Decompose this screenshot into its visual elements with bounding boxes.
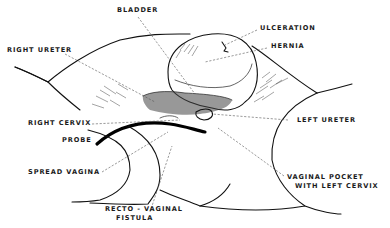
upper-contour <box>15 34 190 82</box>
leader-spread-vagina <box>102 132 168 172</box>
label-left-ureter: LEFT URETER <box>297 117 356 124</box>
label-spread-vagina: SPREAD VAGINA <box>28 169 100 176</box>
label-vaginal-pocket-line2: WITH LEFT CERVIX <box>295 183 379 190</box>
label-vaginal-pocket-line1: VAGINAL POCKET <box>287 174 364 181</box>
label-right-cervix: RIGHT CERVIX <box>28 120 91 127</box>
right-cervix-structure <box>160 116 178 118</box>
label-right-ureter: RIGHT URETER <box>7 47 72 54</box>
anatomical-diagram: BLADDER ULCERATION HERNIA RIGHT URETER L… <box>0 0 390 228</box>
upper-left-thigh <box>15 67 80 110</box>
label-probe: PROBE <box>62 137 92 144</box>
vaginal-inner-fold <box>90 126 160 204</box>
leader-bladder <box>138 17 195 94</box>
lower-contour-2 <box>200 206 305 210</box>
right-hatching <box>254 72 288 102</box>
leader-hernia <box>205 48 267 62</box>
leader-ulceration <box>225 30 257 45</box>
label-ulceration: ULCERATION <box>260 25 316 32</box>
label-recto-vaginal-line1: RECTO - VAGINAL <box>105 206 183 213</box>
ulceration-mark <box>222 42 228 52</box>
leader-left-ureter <box>212 114 288 120</box>
right-thigh-curve <box>272 93 341 214</box>
lower-contour <box>160 184 230 206</box>
hernia-inner-fold <box>175 64 252 88</box>
leader-vaginal-pocket <box>218 128 284 176</box>
left-hatching <box>92 84 128 108</box>
bladder-base-stipple <box>143 92 232 115</box>
diagram-drawing <box>0 0 390 228</box>
label-recto-vaginal-line2: FISTULA <box>116 215 153 222</box>
label-bladder: BLADDER <box>117 7 158 14</box>
leader-recto-vaginal <box>150 146 172 212</box>
probe <box>97 123 205 144</box>
right-thigh-top <box>317 84 352 93</box>
label-hernia: HERNIA <box>271 43 305 50</box>
leader-right-ureter <box>65 54 155 102</box>
right-contour <box>252 46 317 93</box>
